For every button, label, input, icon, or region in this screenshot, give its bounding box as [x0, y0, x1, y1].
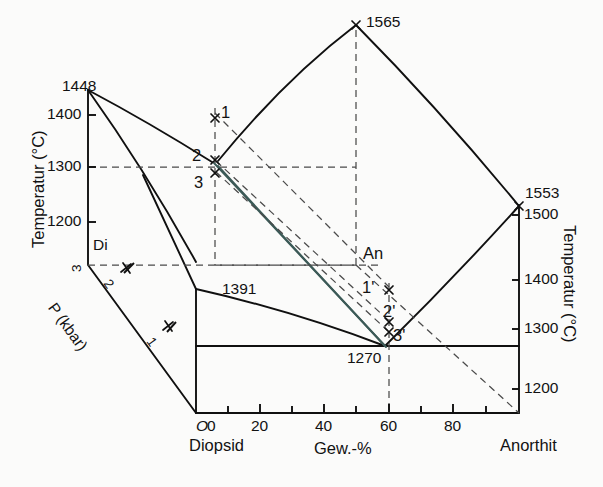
apex-label-1553: 1553	[525, 185, 559, 201]
bottom-tick-label-80: 80	[444, 418, 461, 434]
pressure-edge-diopside-liquidus	[143, 175, 196, 289]
point-label-1-prime: 1'	[362, 279, 374, 296]
phase-diagram-figure: Temperatur (°C) 1448 1400 1300 1200 Di 3…	[0, 0, 603, 487]
back-anorthite-liquidus	[218, 25, 356, 161]
front-liquidus-label-1391: 1391	[222, 281, 256, 297]
cotectic-line-lower	[218, 166, 386, 347]
left-apex-value-1448: 1448	[62, 78, 96, 94]
depth-line-anorthite	[356, 265, 519, 413]
front-eutectic-label-1270: 1270	[347, 350, 381, 366]
right-tick-label-1200: 1200	[524, 380, 558, 396]
right-tick-label-1300: 1300	[524, 320, 558, 336]
point-label-1: 1	[221, 104, 230, 121]
marker-1565	[352, 21, 360, 29]
front-anorthite-liquidus	[385, 206, 519, 346]
right-axis-title: Temperatur (°C)	[562, 225, 579, 343]
bottom-tick-label-40: 40	[315, 418, 332, 434]
bottom-axis-title: Gew.-%	[314, 440, 372, 457]
point-label-3: 3	[194, 174, 203, 191]
left-axis-title: Temperatur (°C)	[30, 130, 47, 248]
back-apex-to-right-corner	[356, 25, 519, 206]
bottom-origin-label: 0	[207, 418, 216, 434]
bottom-tick-label-60: 60	[380, 418, 397, 434]
point-label-2-prime: 2'	[383, 303, 395, 320]
di-corner-label: Di	[93, 237, 108, 253]
point-label-2: 2	[192, 147, 201, 164]
right-tick-label-1400: 1400	[524, 271, 558, 287]
right-tick-label-1500: 1500	[524, 206, 558, 222]
bottom-tick-label-20: 20	[251, 418, 268, 434]
bottom-endmember-anorthit: Anorthit	[500, 437, 557, 454]
point-label-3-prime: 3'	[393, 327, 405, 344]
left-tick-label-1300: 1300	[47, 158, 81, 174]
diagram-canvas	[0, 0, 603, 487]
apex-label-1565: 1565	[366, 14, 400, 30]
bottom-endmember-diopsid: Diopsid	[189, 437, 244, 454]
an-corner-label: An	[363, 245, 383, 262]
left-tick-label-1400: 1400	[47, 106, 81, 122]
pressure-tick-label-3: 3	[70, 264, 84, 272]
front-diopside-liquidus	[196, 289, 385, 346]
left-tick-label-1200: 1200	[47, 213, 81, 229]
